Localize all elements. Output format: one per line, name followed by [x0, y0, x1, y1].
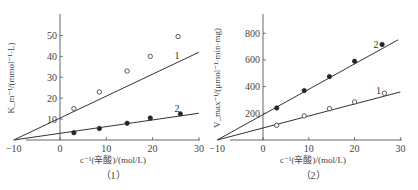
y-tick-label: 30	[47, 72, 57, 83]
data-point	[72, 130, 76, 134]
x-tick-label: 0	[261, 143, 266, 154]
y-axis-title: V_max⁻¹/(μmol⁻¹·min·mg)	[212, 28, 222, 128]
series-label: 1	[376, 85, 381, 96]
data-point	[302, 114, 306, 118]
x-tick-label: 30	[194, 143, 204, 154]
x-tick-label: 0	[58, 143, 63, 154]
y-tick-label: 800	[245, 28, 260, 39]
x-tick-label: 20	[350, 143, 360, 154]
series-label: 2	[374, 39, 379, 50]
data-point	[382, 91, 386, 95]
x-tick-label: −10	[6, 143, 22, 154]
chart-figure: −1001020301020304050c⁻¹(辛酸)/(mol/L)K_m⁻¹…	[0, 0, 418, 190]
data-point	[97, 90, 101, 94]
y-tick-label: 40	[47, 51, 57, 62]
y-tick-label: 10	[47, 114, 57, 125]
series-2: 2	[14, 103, 199, 140]
x-tick-label: 10	[101, 143, 111, 154]
data-point	[327, 106, 331, 110]
y-tick-label: 600	[245, 54, 260, 65]
chart-panel-2: −100102030200400600800c⁻¹(辛酸)/(mol/L)V_m…	[209, 14, 405, 181]
y-tick-label: 20	[47, 93, 57, 104]
data-point	[275, 106, 279, 110]
data-point	[380, 42, 384, 46]
panel-label: （2）	[301, 170, 326, 181]
y-axis-title: K_m⁻¹/(mmol⁻¹·L)	[6, 43, 16, 114]
series-1: 1	[14, 34, 199, 140]
data-point	[352, 100, 356, 104]
data-point	[176, 34, 180, 38]
x-axis-title: c⁻¹(辛酸)/(mol/L)	[80, 154, 146, 165]
data-point	[148, 54, 152, 58]
y-tick-label: 50	[47, 30, 57, 41]
series-label: 2	[174, 103, 179, 114]
x-tick-label: −10	[209, 143, 225, 154]
data-point	[352, 59, 356, 63]
y-tick-label: 400	[245, 81, 260, 92]
panel-label: （1）	[101, 170, 126, 181]
data-point	[97, 126, 101, 130]
data-point	[125, 69, 129, 73]
chart-panel-1: −1001020301020304050c⁻¹(辛酸)/(mol/L)K_m⁻¹…	[6, 14, 204, 181]
data-point	[148, 116, 152, 120]
data-point	[302, 88, 306, 92]
series-label: 1	[174, 50, 179, 61]
data-point	[72, 106, 76, 110]
x-tick-label: 10	[304, 143, 314, 154]
x-tick-label: 30	[395, 143, 405, 154]
data-point	[275, 123, 279, 127]
data-point	[125, 121, 129, 125]
data-point	[327, 74, 331, 78]
x-axis-title: c⁻¹(辛酸)/(mol/L)	[280, 154, 346, 165]
x-tick-label: 20	[148, 143, 158, 154]
